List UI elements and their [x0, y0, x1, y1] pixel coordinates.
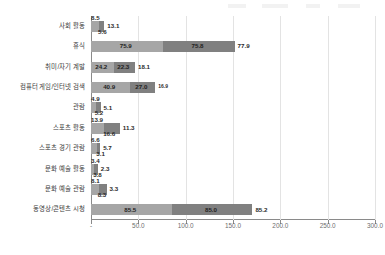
category-label: 문화 예술 활동 — [0, 166, 85, 172]
legend-ghost-4 — [338, 4, 360, 8]
data-label: 11.3 — [123, 125, 135, 131]
gridline — [375, 16, 376, 220]
chart-row: 취미/자기 계발24.222.318.1 — [91, 62, 375, 73]
chart-row: 스포츠 활동13.916.611.3 — [91, 123, 375, 134]
x-tick-label: 100.0 — [178, 223, 194, 229]
data-label: 75.9 — [120, 43, 132, 49]
data-label: 40.9 — [103, 84, 115, 90]
legend-ghost-2 — [262, 4, 288, 8]
data-label: 22.3 — [117, 64, 129, 70]
data-label: 5.6 — [98, 29, 107, 35]
category-label: 컴퓨터 게임/인터넷 검색 — [0, 84, 85, 90]
chart-row: 사회 활동8.55.613.1 — [91, 21, 375, 32]
legend-ghost-1 — [228, 4, 246, 8]
data-label: 24.2 — [95, 64, 107, 70]
data-label: 18.1 — [138, 64, 150, 70]
x-tick-label: 250.0 — [320, 223, 336, 229]
data-label: 85.5 — [124, 207, 136, 213]
chart-row: 휴식75.975.877.9 — [91, 41, 375, 52]
category-label: 문화 예술 관람 — [0, 186, 85, 192]
x-tick-label: 150.0 — [225, 223, 241, 229]
category-label: 스포츠 경기 관람 — [0, 145, 85, 151]
data-label: 16.6 — [103, 131, 115, 137]
x-tick-label: - — [90, 223, 92, 229]
chart-row: 문화 예술 활동3.43.82.3 — [91, 164, 375, 175]
data-label: 77.9 — [238, 43, 250, 49]
data-label: 75.8 — [192, 43, 204, 49]
data-label: 5.7 — [103, 145, 112, 151]
data-label: 2.3 — [101, 166, 110, 172]
data-label: 3.3 — [110, 186, 119, 192]
x-axis-tick-labels: -50.0100.0150.0200.0250.0300.0 — [91, 223, 375, 237]
data-label: 13.1 — [107, 23, 119, 29]
data-label: 8.1 — [91, 178, 100, 184]
chart-row: 동영상/콘텐츠 시청85.585.085.2 — [91, 204, 375, 215]
chart-row: 문화 예술 관람8.18.33.3 — [91, 184, 375, 195]
category-label: 취미/자기 계발 — [0, 64, 85, 70]
data-label: 85.0 — [205, 207, 217, 213]
legend-strip-cropped — [0, 0, 385, 14]
data-label: 8.3 — [98, 192, 107, 198]
data-label: 27.0 — [135, 84, 147, 90]
data-label: 6.6 — [91, 137, 100, 143]
stacked-bar-chart: 사회 활동8.55.613.1휴식75.975.877.9취미/자기 계발24.… — [0, 0, 385, 255]
x-tick-label: 300.0 — [367, 223, 383, 229]
chart-row: 컴퓨터 게임/인터넷 검색40.927.016.9 — [91, 82, 375, 93]
legend-ghost-3 — [306, 4, 320, 8]
data-label: 16.9 — [158, 84, 168, 89]
chart-row: 관람4.95.25.1 — [91, 102, 375, 113]
x-tick-label: 50.0 — [132, 223, 144, 229]
x-tick-label: 200.0 — [272, 223, 288, 229]
plot-area: 사회 활동8.55.613.1휴식75.975.877.9취미/자기 계발24.… — [91, 16, 375, 220]
data-label: 5.1 — [104, 105, 113, 111]
data-label: 4.9 — [91, 96, 100, 102]
category-label: 사회 활동 — [0, 23, 85, 29]
data-label: 13.9 — [91, 117, 103, 123]
category-label: 휴식 — [0, 43, 85, 49]
data-label: 8.5 — [91, 15, 100, 21]
category-label: 동영상/콘텐츠 시청 — [0, 206, 85, 212]
category-label: 스포츠 활동 — [0, 125, 85, 131]
data-label: 85.2 — [255, 207, 267, 213]
data-label: 3.4 — [91, 158, 100, 164]
category-label: 관람 — [0, 104, 85, 110]
chart-row: 스포츠 경기 관람6.63.15.7 — [91, 143, 375, 154]
